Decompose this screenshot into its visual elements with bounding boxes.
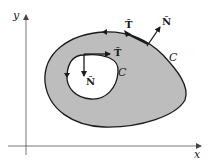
outer-tangent-label: T̂ <box>125 19 133 30</box>
outer-normal-label: N̂ <box>162 16 171 27</box>
inner-tangent-label: T̂ <box>114 47 122 58</box>
y-axis-label: y <box>12 9 20 22</box>
inner-curve-label: C <box>118 66 127 79</box>
outer-curve-label: C <box>169 51 178 64</box>
outer-normal-arrow-icon <box>147 27 160 46</box>
inner-normal-label: N̂ <box>86 76 95 87</box>
x-axis-label: x <box>194 148 201 161</box>
region-diagram: y x T̂ N̂ C T̂ N̂ C <box>0 0 209 163</box>
